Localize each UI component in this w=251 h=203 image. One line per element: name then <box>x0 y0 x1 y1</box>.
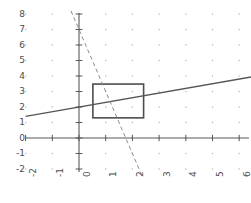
grid-dot <box>185 60 186 61</box>
grid-dot <box>159 153 160 154</box>
grid-dot <box>25 153 26 154</box>
grid-dot <box>212 122 213 123</box>
grid-dot <box>132 75 133 76</box>
grid-dot <box>185 44 186 45</box>
grid-dot <box>105 122 106 123</box>
x-tick-label: 1 <box>109 171 118 177</box>
grid-dot <box>105 168 106 169</box>
series-layer <box>26 11 251 175</box>
grid-dot <box>25 168 26 169</box>
grid-dot <box>105 29 106 30</box>
x-tick-label: 6 <box>243 171 251 177</box>
grid-dot <box>52 91 53 92</box>
grid-dot <box>132 106 133 107</box>
grid-dot <box>132 122 133 123</box>
rectangle-shape <box>93 84 144 118</box>
grid-dot <box>52 44 53 45</box>
x-tick-label: 4 <box>189 171 198 177</box>
x-tick-label: -1 <box>56 168 65 177</box>
y-tick-label: 0 <box>7 134 25 143</box>
grid-dot <box>185 13 186 14</box>
grid-dot <box>239 13 240 14</box>
grid-dot <box>25 60 26 61</box>
grid-dot <box>132 13 133 14</box>
grid-dot <box>52 153 53 154</box>
grid-dot <box>212 75 213 76</box>
y-tick-label: -2 <box>7 165 25 174</box>
y-tick-label: 8 <box>7 10 25 19</box>
grid-dot <box>105 13 106 14</box>
grid-dot <box>25 13 26 14</box>
grid-dot <box>105 106 106 107</box>
grid-dot <box>212 106 213 107</box>
axes-layer <box>26 13 249 172</box>
grid-dot <box>25 29 26 30</box>
grid-dot <box>52 29 53 30</box>
grid-dot <box>185 29 186 30</box>
grid-dot <box>239 60 240 61</box>
x-tick-label: 5 <box>216 171 225 177</box>
y-tick-label: 7 <box>7 25 25 34</box>
grid-dot <box>132 60 133 61</box>
grid-dot <box>159 29 160 30</box>
y-tick-label: 2 <box>7 103 25 112</box>
x-tick-label: 2 <box>136 171 145 177</box>
grid-dot <box>185 153 186 154</box>
grid-dot <box>185 91 186 92</box>
grid-dot <box>52 75 53 76</box>
grid-dot <box>25 106 26 107</box>
grid-dot <box>25 122 26 123</box>
y-tick-label: 4 <box>7 72 25 81</box>
grid-dot <box>212 44 213 45</box>
grid-dot <box>132 91 133 92</box>
grid-dot <box>105 75 106 76</box>
grid-dot <box>239 122 240 123</box>
dashed-line <box>71 11 142 175</box>
grid-dot <box>239 91 240 92</box>
x-tick-label: 3 <box>163 171 172 177</box>
grid-dot <box>159 91 160 92</box>
grid-dot <box>239 44 240 45</box>
grid-dot <box>159 106 160 107</box>
grid-dot <box>212 153 213 154</box>
grid-dot <box>25 44 26 45</box>
grid-dot <box>105 44 106 45</box>
coordinate-plane-figure: -2-1012345678 -2-10123456 <box>0 0 251 203</box>
grid-dot <box>52 122 53 123</box>
grid-dot <box>132 29 133 30</box>
grid-dot <box>159 168 160 169</box>
y-tick-label: 6 <box>7 41 25 50</box>
grid-dot <box>185 168 186 169</box>
grid-dot <box>212 91 213 92</box>
grid-dot <box>52 106 53 107</box>
grid-dot <box>132 44 133 45</box>
grid-dot <box>239 75 240 76</box>
y-tick-label: -1 <box>7 149 25 158</box>
x-tick-label: 0 <box>83 171 92 177</box>
grid-dot <box>52 60 53 61</box>
y-tick-label: 3 <box>7 87 25 96</box>
grid-dot <box>212 29 213 30</box>
grid-dot <box>185 75 186 76</box>
grid-dot <box>239 29 240 30</box>
grid-dot <box>105 60 106 61</box>
grid-dot <box>239 106 240 107</box>
grid-dot <box>185 122 186 123</box>
grid-dot <box>159 44 160 45</box>
grid-dots-layer <box>25 13 240 169</box>
grid-dot <box>159 122 160 123</box>
grid-dot <box>52 168 53 169</box>
grid-dot <box>25 75 26 76</box>
grid-dot <box>185 106 186 107</box>
grid-dot <box>212 168 213 169</box>
grid-dot <box>212 60 213 61</box>
grid-dot <box>159 75 160 76</box>
grid-dot <box>159 60 160 61</box>
shapes-layer <box>93 84 144 118</box>
grid-dot <box>239 153 240 154</box>
grid-dot <box>105 153 106 154</box>
grid-dot <box>212 13 213 14</box>
grid-dot <box>52 13 53 14</box>
grid-dot <box>25 91 26 92</box>
grid-dot <box>239 168 240 169</box>
